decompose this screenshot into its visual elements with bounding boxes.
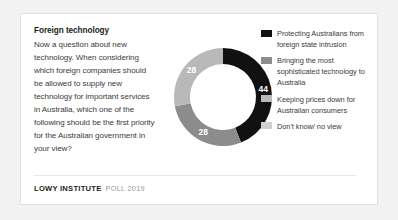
chart-legend: Protecting Australians from foreign stat… — [261, 28, 373, 137]
legend-swatch-icon — [261, 95, 272, 102]
poll-card: Foreign technology Now a question about … — [20, 13, 378, 205]
question-title: Foreign technology — [34, 26, 156, 35]
brand-subtitle: POLL 2019 — [105, 184, 144, 193]
legend-item: Protecting Australians from foreign stat… — [261, 28, 373, 50]
legend-item: Keeping prices down for Australian consu… — [261, 94, 373, 116]
footer: LOWY INSTITUTE POLL 2019 — [34, 184, 364, 193]
donut-slice-label: 28 — [199, 127, 209, 137]
donut-slice — [174, 48, 223, 106]
legend-item: Bringing the most sophisticated technolo… — [261, 55, 373, 88]
donut-slice-group — [174, 48, 272, 146]
legend-item: Don't know/ no view — [261, 121, 373, 132]
legend-swatch-icon — [261, 30, 272, 37]
legend-label: Bringing the most sophisticated technolo… — [277, 55, 373, 88]
legend-swatch-icon — [261, 122, 272, 129]
legend-label: Don't know/ no view — [277, 121, 342, 132]
screenshot-root: Foreign technology Now a question about … — [0, 0, 398, 220]
donut-slice — [175, 103, 241, 146]
question-body: Now a question about new technology. Whe… — [34, 39, 156, 156]
question-block: Foreign technology Now a question about … — [34, 26, 156, 156]
footer-divider — [34, 175, 356, 176]
legend-label: Keeping prices down for Australian consu… — [277, 94, 373, 116]
brand-name: LOWY INSTITUTE — [34, 184, 101, 193]
donut-slice-label: 28 — [187, 65, 197, 75]
legend-label: Protecting Australians from foreign stat… — [277, 28, 373, 50]
legend-swatch-icon — [261, 57, 272, 64]
